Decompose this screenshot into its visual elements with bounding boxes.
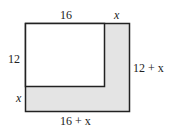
label-bottom-outer: 16 + x (60, 114, 91, 128)
label-right-outer: 12 + x (133, 61, 164, 75)
label-top-extension: x (113, 8, 120, 22)
label-top-inner: 16 (60, 8, 72, 22)
right-outer-text: 12 + x (133, 61, 164, 75)
label-left-inner: 12 (8, 52, 20, 66)
label-left-extension: x (15, 91, 22, 105)
inner-rectangle (26, 24, 105, 87)
rectangle-diagram: 16 x 12 x 12 + x 16 + x (0, 0, 173, 128)
